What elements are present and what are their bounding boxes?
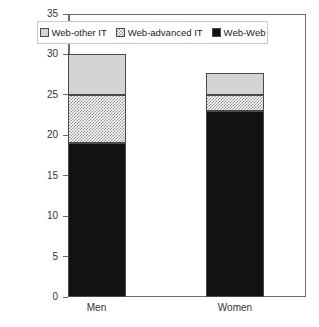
y-tick-label: 10 [28, 211, 58, 221]
bar-stack [68, 14, 126, 297]
legend-label: Web-advanced IT [128, 28, 203, 38]
x-tick-label: Men [57, 302, 137, 314]
y-tick-label: 25 [28, 90, 58, 100]
y-tick-label: 30 [28, 49, 58, 59]
y-tick-label: 35 [28, 9, 58, 19]
chart-legend: Web-other ITWeb-advanced ITWeb-Web [37, 21, 268, 44]
light-gray-swatch-icon [40, 28, 49, 37]
bar-segment [68, 95, 126, 144]
stacked-bar-chart: 05101520253035 MenWomen Web-other ITWeb-… [0, 0, 319, 327]
y-tick-label: 20 [28, 130, 58, 140]
bar-segment [206, 95, 264, 111]
y-tick-label: 0 [28, 292, 58, 302]
black-dotted-swatch-icon [212, 28, 221, 37]
legend-label: Web-Web [224, 28, 266, 38]
legend-item: Web-Web [212, 28, 266, 38]
x-tick-label: Women [195, 302, 275, 314]
y-tick-label: 5 [28, 252, 58, 262]
legend-item: Web-other IT [40, 28, 107, 38]
bar-stack [206, 14, 264, 297]
bar-segment [206, 73, 264, 95]
bar-segment [68, 54, 126, 94]
y-tick-label: 15 [28, 171, 58, 181]
bar-segment [68, 143, 126, 297]
legend-item: Web-advanced IT [116, 28, 203, 38]
bar-segment [206, 111, 264, 297]
gray-checker-swatch-icon [116, 28, 125, 37]
legend-label: Web-other IT [52, 28, 107, 38]
